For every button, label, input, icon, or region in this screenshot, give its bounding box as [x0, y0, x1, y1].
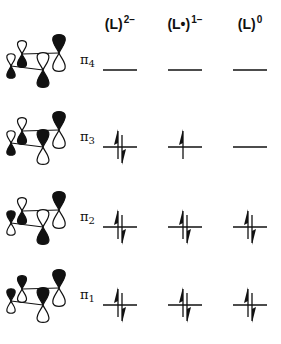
bond-line [11, 66, 43, 70]
p-orbital-pi4-atom3-bottom-lobe [53, 53, 66, 71]
p-orbital-pi4-atom3-top-lobe [53, 35, 66, 53]
p-orbital-pi1-atom1-bottom-lobe [7, 301, 15, 313]
p-orbital-pi3-atom3-top-lobe [53, 112, 66, 130]
p-orbital-pi1-atom3-top-lobe [53, 270, 66, 288]
p-orbital-pi3-atom1-bottom-lobe [7, 143, 15, 155]
p-orbital-pi3-atom0-bottom-lobe [17, 131, 26, 144]
p-orbital-pi2-atom0-top-lobe [17, 198, 26, 211]
p-orbital-pi1-atom2-top-lobe [37, 288, 49, 305]
bond-line [11, 301, 43, 305]
p-orbital-pi2-atom3-top-lobe [53, 192, 66, 210]
bond-line [11, 143, 43, 147]
p-orbital-pi4-atom0-bottom-lobe [17, 54, 26, 67]
p-orbital-pi2-atom1-bottom-lobe [7, 223, 15, 235]
p-orbital-pi1-atom0-top-lobe [17, 276, 26, 289]
spin-up-arrowhead-icon [114, 209, 118, 225]
p-orbital-pi3-atom2-top-lobe [37, 130, 49, 147]
spin-up-arrowhead-icon [114, 287, 118, 303]
p-orbital-pi4-atom0-top-lobe [17, 41, 26, 54]
p-orbital-pi4-atom2-bottom-lobe [37, 70, 49, 87]
spin-down-arrowhead-icon [122, 149, 126, 165]
p-orbital-pi1-atom2-bottom-lobe [37, 305, 49, 322]
spin-up-arrowhead-icon [114, 129, 118, 145]
spin-down-arrowhead-icon [122, 307, 126, 323]
p-orbital-pi2-atom2-bottom-lobe [37, 227, 49, 244]
p-orbital-pi4-atom1-bottom-lobe [7, 66, 15, 78]
p-orbital-pi2-atom2-top-lobe [37, 210, 49, 227]
p-orbital-pi2-atom3-bottom-lobe [53, 210, 66, 228]
spin-down-arrowhead-icon [122, 229, 126, 245]
p-orbital-pi1-atom0-bottom-lobe [17, 289, 26, 302]
bond-line [11, 223, 43, 227]
p-orbital-pi3-atom0-top-lobe [17, 118, 26, 131]
mo-diagram [0, 0, 281, 344]
p-orbital-pi3-atom2-bottom-lobe [37, 147, 49, 164]
p-orbital-pi3-atom3-bottom-lobe [53, 130, 66, 148]
p-orbital-pi4-atom2-top-lobe [37, 53, 49, 70]
p-orbital-pi1-atom3-bottom-lobe [53, 288, 66, 306]
p-orbital-pi2-atom0-bottom-lobe [17, 211, 26, 224]
